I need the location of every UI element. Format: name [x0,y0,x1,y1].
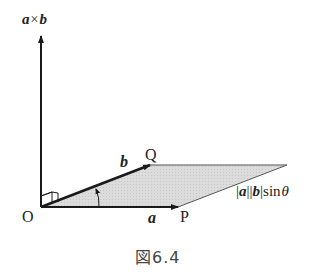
point-p-label: P [180,208,189,225]
cross-product-diagram: a×b O P Q a b |a||b|sinθ 図6.4 [0,0,325,278]
area-formula-label: |a||b|sinθ [236,183,290,199]
point-q-label: Q [145,146,157,163]
point-o-label: O [22,208,34,225]
cross-product-label: a×b [22,11,47,27]
vector-b-label: b [120,153,128,170]
vector-a-label: a [148,209,156,226]
figure-caption: 図6.4 [135,248,180,267]
